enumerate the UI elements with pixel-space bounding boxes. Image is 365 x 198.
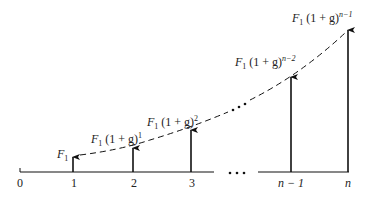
flow-label-n: F1 (1 + g)n−1 — [292, 12, 353, 24]
tick-label-1: 1 — [71, 177, 77, 189]
flow-label-3: F1 (1 + g)2 — [147, 116, 198, 128]
tick-label-n: n — [345, 177, 351, 189]
diagram-graphics — [0, 0, 365, 198]
flow-label-1: F1 — [57, 148, 68, 160]
tick-label-0: 0 — [17, 177, 23, 189]
flow-label-2: F1 (1 + g)1 — [91, 133, 142, 145]
tick-label-3: 3 — [189, 177, 195, 189]
tick-label-n-1: n − 1 — [278, 177, 304, 189]
flow-label-n-1: F1 (1 + g)n−2 — [235, 56, 296, 68]
tick-label-2: 2 — [131, 177, 137, 189]
geometric-gradient-cash-flow-diagram: 0 1 2 3 n − 1 n F1 F1 (1 + g)1 F1 (1 + g… — [0, 0, 365, 198]
